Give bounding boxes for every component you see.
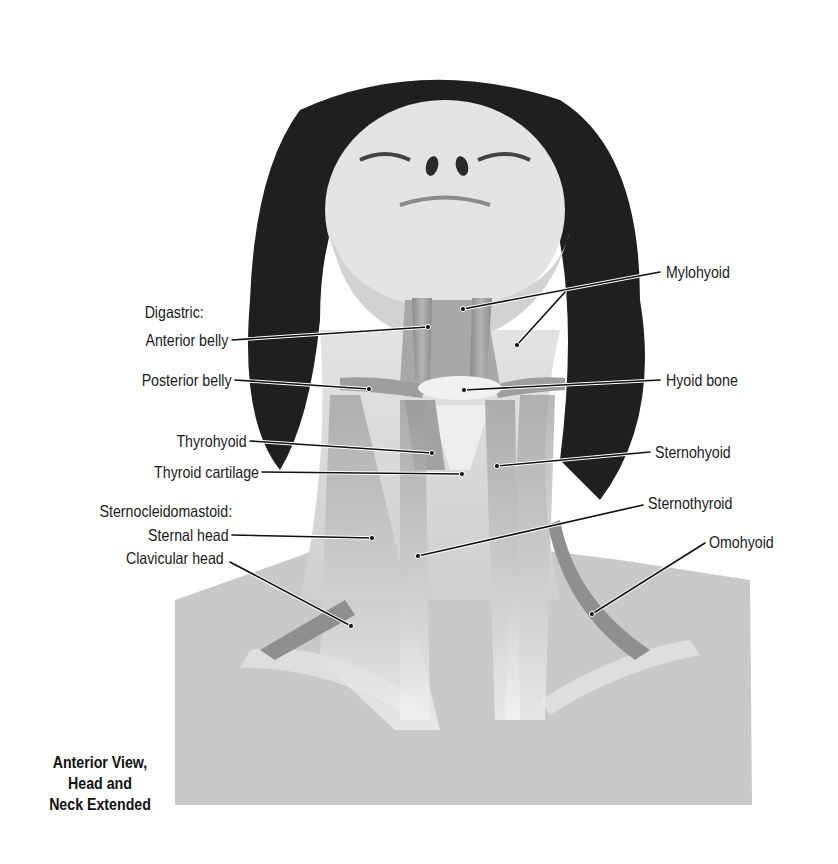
label-anterior-belly: Anterior belly — [145, 331, 228, 349]
anatomy-illustration — [0, 0, 838, 864]
label-thyrohyoid: Thyrohyoid — [177, 432, 247, 450]
caption-line-1: Anterior View, — [31, 752, 169, 773]
figure-caption: Anterior View, Head and Neck Extended — [31, 752, 169, 815]
label-digastric: Digastric: — [145, 303, 204, 321]
label-sternal-head: Sternal head — [149, 526, 229, 544]
label-thyroid-cartilage: Thyroid cartilage — [154, 463, 259, 481]
label-sternothyroid: Sternothyroid — [648, 494, 732, 512]
label-mylohyoid: Mylohyoid — [666, 263, 730, 281]
label-sternocleidomastoid: Sternocleidomastoid: — [99, 502, 232, 520]
digastric-anterior-left — [412, 298, 432, 380]
label-sternohyoid: Sternohyoid — [655, 443, 731, 461]
label-hyoid-bone: Hyoid bone — [666, 371, 738, 389]
caption-line-2: Head and — [31, 773, 169, 794]
caption-line-3: Neck Extended — [31, 794, 169, 815]
label-clavicular-head: Clavicular head — [126, 549, 224, 567]
label-posterior-belly: Posterior belly — [142, 371, 232, 389]
label-omohyoid: Omohyoid — [709, 533, 774, 551]
